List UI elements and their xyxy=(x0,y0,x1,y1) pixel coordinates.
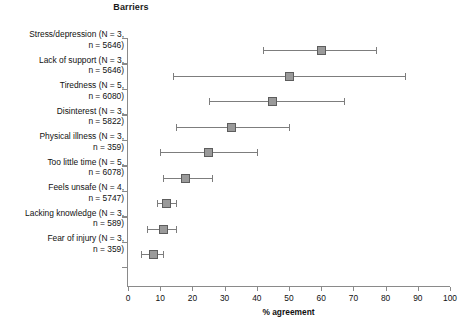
error-bar-cap-high xyxy=(376,47,377,54)
x-axis-tick xyxy=(160,287,161,291)
error-bar-cap-high xyxy=(344,98,345,105)
error-bar-cap-high xyxy=(163,251,164,258)
error-bar-cap-high xyxy=(212,175,213,182)
x-axis-tick-label: 60 xyxy=(306,293,336,303)
error-bar-cap-low xyxy=(147,226,148,233)
data-point-row xyxy=(0,95,462,109)
y-axis-tick xyxy=(122,217,127,218)
x-axis-tick-label: 80 xyxy=(371,293,401,303)
x-axis-tick xyxy=(128,287,129,291)
y-axis-tick xyxy=(122,242,127,243)
chart-title: Barriers xyxy=(0,2,262,12)
data-point-marker xyxy=(162,199,171,208)
x-axis-tick xyxy=(418,287,419,291)
data-point-marker xyxy=(268,97,277,106)
error-bar-cap-low xyxy=(163,175,164,182)
data-point-marker xyxy=(285,72,294,81)
y-axis-tick xyxy=(122,140,127,141)
x-axis-tick-label: 20 xyxy=(177,293,207,303)
error-bar-cap-low xyxy=(173,73,174,80)
error-bar-cap-high xyxy=(176,200,177,207)
error-bar-cap-high xyxy=(257,149,258,156)
data-point-row xyxy=(0,223,462,237)
data-point-row xyxy=(0,248,462,262)
data-point-row xyxy=(0,197,462,211)
error-bar-cap-low xyxy=(160,149,161,156)
plot-area: % agreement 0102030405060708090100 xyxy=(0,18,462,266)
y-axis-tick xyxy=(122,115,127,116)
x-axis-tick-label: 90 xyxy=(403,293,433,303)
data-point-marker xyxy=(227,123,236,132)
data-point-marker xyxy=(149,250,158,259)
data-point-marker xyxy=(204,148,213,157)
y-axis-tick xyxy=(122,191,127,192)
x-axis-tick-label: 40 xyxy=(242,293,272,303)
data-point-row xyxy=(0,44,462,58)
x-axis-tick-label: 70 xyxy=(338,293,368,303)
data-point-marker xyxy=(159,225,168,234)
y-axis-tick xyxy=(122,89,127,90)
x-axis-label: % agreement xyxy=(127,307,450,317)
data-point-row xyxy=(0,121,462,135)
error-bar-cap-low xyxy=(141,251,142,258)
y-axis-tick xyxy=(122,267,127,268)
x-axis-tick xyxy=(289,287,290,291)
error-bar-cap-high xyxy=(289,124,290,131)
error-bar-cap-low xyxy=(209,98,210,105)
x-axis-tick xyxy=(225,287,226,291)
x-axis-tick xyxy=(192,287,193,291)
x-axis-tick-label: 10 xyxy=(145,293,175,303)
error-bar-cap-low xyxy=(157,200,158,207)
data-point-marker xyxy=(317,46,326,55)
x-axis-tick-label: 30 xyxy=(210,293,240,303)
x-axis-tick-label: 0 xyxy=(113,293,143,303)
x-axis-tick-label: 50 xyxy=(274,293,304,303)
x-axis-tick xyxy=(257,287,258,291)
x-axis-tick xyxy=(386,287,387,291)
x-axis-tick xyxy=(321,287,322,291)
data-point-marker xyxy=(181,174,190,183)
y-axis-tick xyxy=(122,64,127,65)
x-axis-tick xyxy=(353,287,354,291)
x-axis-tick-label: 100 xyxy=(435,293,462,303)
x-axis-tick xyxy=(450,287,451,291)
error-bar-cap-high xyxy=(405,73,406,80)
data-point-row xyxy=(0,70,462,84)
error-bar-cap-low xyxy=(176,124,177,131)
data-point-row xyxy=(0,172,462,186)
data-point-row xyxy=(0,146,462,160)
y-axis-tick xyxy=(122,166,127,167)
y-axis-tick xyxy=(122,38,127,39)
error-bar-cap-low xyxy=(263,47,264,54)
error-bar-cap-high xyxy=(176,226,177,233)
